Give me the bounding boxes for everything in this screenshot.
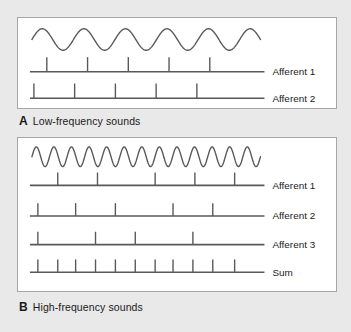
trace-label: Afferent 1 [272, 66, 315, 77]
trace-label: Afferent 2 [272, 93, 315, 104]
spike-train-sum: Sum [30, 259, 293, 277]
spike-train-afferent-1: Afferent 1 [30, 173, 316, 191]
spike-train-afferent-2: Afferent 2 [30, 203, 315, 221]
caption-a-text: Low-frequency sounds [33, 115, 141, 127]
caption-a-letter: A [19, 114, 28, 128]
spike-train-afferent-2: Afferent 2 [30, 84, 315, 104]
caption-b-letter: B [19, 300, 28, 314]
caption-a: ALow-frequency sounds [19, 114, 140, 128]
low-frequency-sine-wave [32, 29, 261, 51]
spike-train-afferent-1: Afferent 1 [30, 57, 315, 77]
trace-label: Afferent 1 [272, 180, 315, 191]
neural-phase-locking-figure: Afferent 1Afferent 2 ALow-frequency soun… [0, 0, 351, 332]
caption-b: BHigh-frequency sounds [19, 300, 143, 314]
caption-b-text: High-frequency sounds [33, 301, 143, 313]
trace-label: Sum [272, 267, 292, 278]
trace-label: Afferent 3 [272, 239, 315, 250]
panel-a-traces: Afferent 1Afferent 2 [18, 18, 336, 108]
high-frequency-sine-wave [32, 147, 261, 167]
panel-b-traces: Afferent 1Afferent 2Afferent 3Sum [18, 138, 336, 291]
spike-train-afferent-3: Afferent 3 [30, 232, 316, 250]
panel-a-low-frequency: Afferent 1Afferent 2 [17, 17, 337, 109]
panel-b-high-frequency: Afferent 1Afferent 2Afferent 3Sum [17, 137, 337, 292]
trace-label: Afferent 2 [272, 210, 315, 221]
